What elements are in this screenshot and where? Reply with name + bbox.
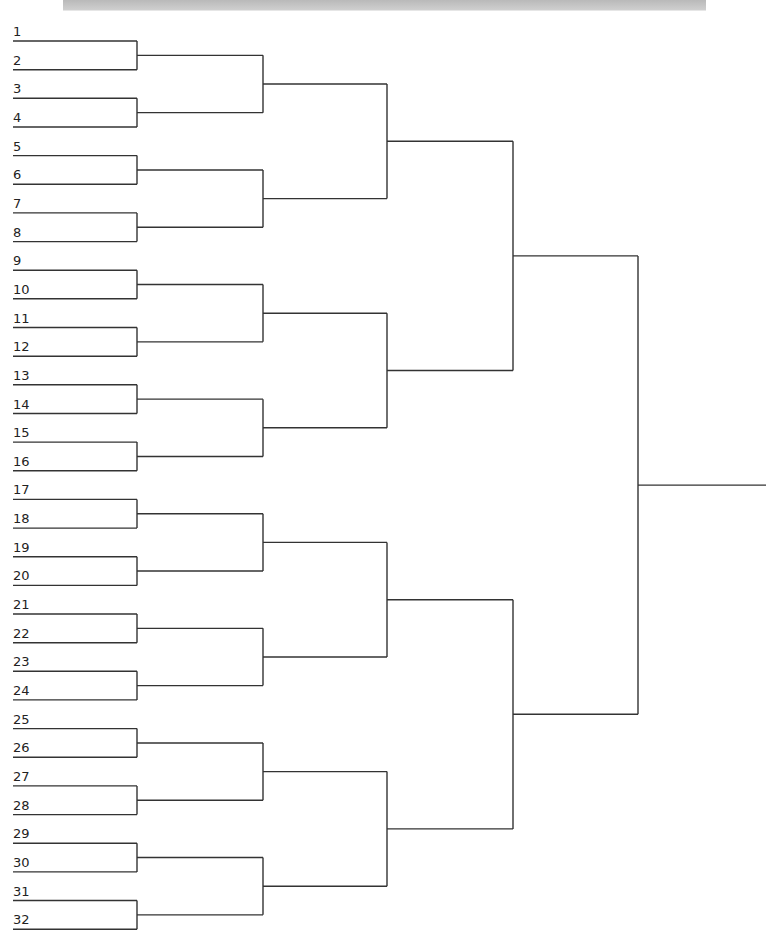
seed-label: 23 [13,654,30,669]
seed-label: 30 [13,855,30,870]
seed-label: 18 [13,511,30,526]
seed-label: 5 [13,139,21,154]
seed-label: 28 [13,798,30,813]
seed-label: 32 [13,912,30,927]
seed-label: 27 [13,769,30,784]
tournament-bracket: 1234567891011121314151617181920212223242… [0,0,773,934]
seed-label: 29 [13,826,30,841]
seed-label: 8 [13,225,21,240]
seed-label: 3 [13,81,21,96]
seed-label: 21 [13,597,30,612]
seed-label: 14 [13,397,30,412]
seed-label: 25 [13,712,30,727]
seed-label: 7 [13,196,21,211]
seed-label: 15 [13,425,30,440]
seed-label: 13 [13,368,30,383]
seed-label: 1 [13,24,21,39]
seed-label: 4 [13,110,21,125]
seed-label: 2 [13,53,21,68]
seed-label: 9 [13,253,21,268]
seed-label: 17 [13,482,30,497]
seed-label: 11 [13,311,30,326]
seed-label: 6 [13,167,21,182]
seed-label: 22 [13,626,30,641]
seed-label: 24 [13,683,30,698]
seed-label: 10 [13,282,30,297]
seed-label: 12 [13,339,30,354]
seed-label: 16 [13,454,30,469]
seed-label: 19 [13,540,30,555]
seed-label: 26 [13,740,30,755]
seed-label: 31 [13,884,30,899]
seed-label: 20 [13,568,30,583]
